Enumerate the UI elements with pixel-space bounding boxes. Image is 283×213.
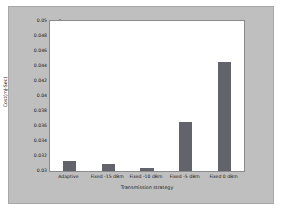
x-tick-label: Adaptive xyxy=(58,174,78,180)
plot-area xyxy=(49,20,245,172)
y-tick-label: 0.042 xyxy=(34,78,47,83)
y-axis-tick-labels: 0.030.0320.0340.0360.0380.040.0420.0440.… xyxy=(10,20,47,172)
y-tick-label: 0.038 xyxy=(34,108,47,113)
y-tick-label: 0.034 xyxy=(34,138,47,143)
y-tick-label: 0.032 xyxy=(34,153,47,158)
x-tick-label: Fixed 0 dBm xyxy=(209,174,237,180)
chart-figure: 0.030.0320.0340.0360.0380.040.0420.0440.… xyxy=(0,0,283,213)
bar xyxy=(63,161,76,171)
y-tick-label: 0.048 xyxy=(34,33,47,38)
y-tick-label: 0.04 xyxy=(37,93,47,98)
x-axis-tick-labels: AdaptiveFixed -15 dBmFixed -10 dBmFixed … xyxy=(49,174,245,184)
y-tick-label: 0.036 xyxy=(34,123,47,128)
bar xyxy=(140,168,153,171)
x-tick-label: Fixed -15 dBm xyxy=(91,174,124,180)
y-axis-title: Cost(mJ-Sec) xyxy=(3,52,9,132)
bar xyxy=(102,164,115,171)
bar xyxy=(218,62,231,172)
y-tick-label: 0.03 xyxy=(37,168,47,173)
y-tick-label: 0.044 xyxy=(34,63,47,68)
bars-layer xyxy=(50,21,244,171)
x-tick-label: Fixed -10 dBm xyxy=(130,174,163,180)
y-tick-label: 0.046 xyxy=(34,48,47,53)
bar xyxy=(179,122,192,171)
x-tick-label: Fixed -5 dBm xyxy=(170,174,200,180)
y-tick-label: 0.05 xyxy=(37,18,47,23)
x-axis-title: Transmission strategy xyxy=(49,185,245,191)
